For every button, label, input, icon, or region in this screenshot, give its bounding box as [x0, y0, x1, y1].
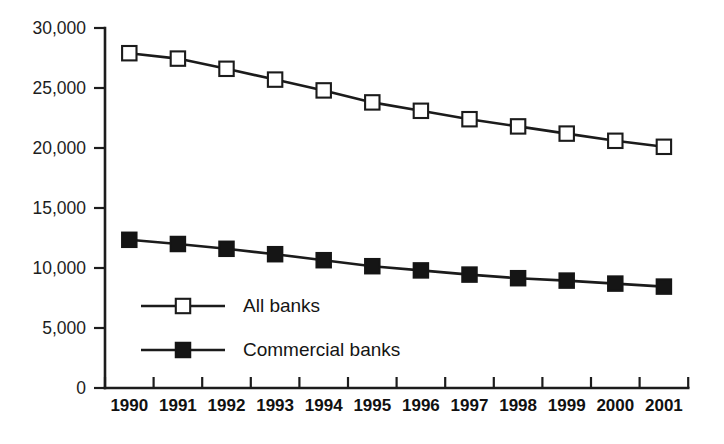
chart-canvas: 05,00010,00015,00020,00025,00030,000 199… — [0, 0, 724, 444]
legend-marker — [176, 343, 190, 357]
y-axis-tick-label: 5,000 — [42, 318, 86, 338]
y-axis-tick-label: 30,000 — [32, 18, 86, 38]
x-axis-tick-label: 1993 — [256, 396, 294, 415]
data-point-marker — [171, 51, 185, 65]
y-axis-tick-label: 15,000 — [32, 198, 86, 218]
data-point-marker — [317, 253, 331, 267]
data-point-marker — [414, 263, 428, 277]
data-point-marker — [608, 276, 622, 290]
x-axis-tick-label: 1995 — [353, 396, 391, 415]
x-axis-tick-label: 1994 — [305, 396, 343, 415]
x-axis-tick-label: 1996 — [402, 396, 440, 415]
legend-label: All banks — [243, 295, 320, 316]
data-point-marker — [462, 112, 476, 126]
x-axis-tick-label: 2000 — [596, 396, 634, 415]
legend-label: Commercial banks — [243, 339, 400, 360]
data-point-marker — [365, 259, 379, 273]
data-point-marker — [608, 134, 622, 148]
y-axis-tick-label: 0 — [76, 378, 86, 398]
data-point-marker — [122, 46, 136, 60]
data-point-marker — [268, 72, 282, 86]
data-point-marker — [657, 279, 671, 293]
chart-background — [0, 0, 724, 444]
data-point-marker — [511, 271, 525, 285]
data-point-marker — [657, 140, 671, 154]
x-axis-tick-label: 2001 — [645, 396, 683, 415]
data-point-marker — [414, 104, 428, 118]
data-point-marker — [365, 95, 379, 109]
data-point-marker — [560, 273, 574, 287]
data-point-marker — [560, 126, 574, 140]
y-axis-tick-label: 20,000 — [32, 138, 86, 158]
y-axis-tick-label: 25,000 — [32, 78, 86, 98]
legend-marker — [176, 299, 190, 313]
data-point-marker — [219, 242, 233, 256]
legend-item-2: Commercial banks — [141, 339, 400, 360]
x-axis-tick-label: 1997 — [451, 396, 489, 415]
data-point-marker — [511, 119, 525, 133]
x-axis-tick-label: 1990 — [110, 396, 148, 415]
data-point-marker — [219, 62, 233, 76]
line-chart: 05,00010,00015,00020,00025,00030,000 199… — [0, 0, 724, 444]
x-axis-tick-label: 1999 — [548, 396, 586, 415]
data-point-marker — [171, 237, 185, 251]
data-point-marker — [317, 83, 331, 97]
x-axis-tick-label: 1991 — [159, 396, 197, 415]
data-point-marker — [268, 247, 282, 261]
data-point-marker — [462, 267, 476, 281]
y-axis-tick-label: 10,000 — [32, 258, 86, 278]
x-axis-tick-label: 1992 — [208, 396, 246, 415]
x-axis-tick-label: 1998 — [499, 396, 537, 415]
data-point-marker — [122, 233, 136, 247]
